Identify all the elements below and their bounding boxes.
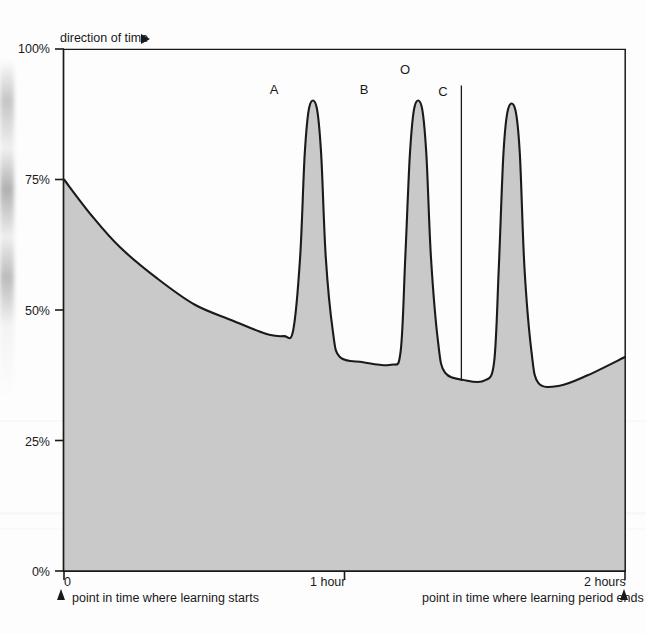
chart-plot-area	[0, 0, 646, 634]
x-tick-label-0: 0	[64, 576, 71, 589]
triangle-right-icon	[141, 34, 150, 44]
caption-learning-starts: point in time where learning starts	[72, 592, 259, 605]
caption-learning-ends: point in time where learning period ends	[422, 592, 644, 605]
triangle-up-icon-start	[57, 589, 65, 600]
x-tick-label-2-hours: 2 hours	[584, 576, 626, 589]
y-tick-label-100: 100%	[4, 43, 50, 56]
direction-of-time-label: direction of time	[60, 32, 148, 45]
peak-label-c: C	[433, 85, 453, 98]
y-tick-label-0: 0%	[4, 566, 50, 579]
x-tick-label-1-hour: 1 hour	[310, 576, 345, 589]
retention-area-fill	[64, 101, 625, 571]
y-tick-label-75: 75%	[4, 174, 50, 187]
triangle-up-icon-end	[620, 589, 628, 600]
y-tick-label-25: 25%	[4, 436, 50, 449]
marker-label-o: O	[395, 63, 415, 76]
peak-label-a: A	[264, 83, 284, 96]
y-tick-label-50: 50%	[4, 305, 50, 318]
chart-figure: 100% 75% 50% 25% 0% 0 1 hour 2 hours dir…	[0, 0, 646, 634]
peak-label-b: B	[354, 83, 374, 96]
